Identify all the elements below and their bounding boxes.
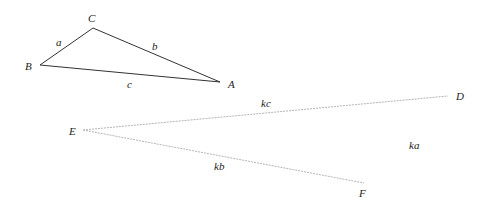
triangle-def: D E F kc kb ka: [68, 90, 464, 199]
triangle-abc-outline: [40, 28, 220, 82]
vertex-f-label: F: [358, 187, 366, 199]
vertex-d-label: D: [455, 90, 464, 102]
vertex-e-label: E: [68, 125, 76, 137]
side-kc-label: kc: [261, 97, 271, 109]
vertex-a-label: A: [227, 78, 235, 90]
side-a-label: a: [56, 36, 62, 48]
side-ef-line: [83, 130, 364, 183]
vertex-b-label: B: [25, 60, 32, 72]
side-kb-label: kb: [214, 160, 225, 172]
side-b-label: b: [152, 40, 158, 52]
triangle-abc: C B A a b c: [25, 12, 235, 90]
side-c-label: c: [127, 78, 132, 90]
similar-triangles-diagram: C B A a b c D E F kc kb ka: [0, 0, 483, 204]
side-ka-label: ka: [409, 139, 420, 151]
vertex-c-label: C: [88, 12, 96, 24]
